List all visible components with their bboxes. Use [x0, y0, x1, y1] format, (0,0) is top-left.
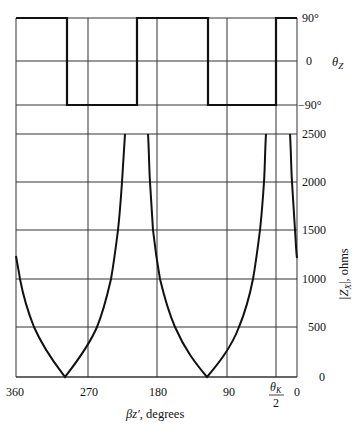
- x-axis-label: βz′, degrees: [125, 407, 184, 421]
- mag-tick-2500: 2500: [302, 127, 326, 141]
- phase-tick-0: 0: [306, 54, 312, 68]
- mag-tick-1500: 1500: [302, 223, 326, 237]
- phase-tick-90: 90°: [302, 11, 319, 25]
- x-tick-0: 0: [294, 385, 300, 399]
- phase-grid: [16, 18, 297, 377]
- x-tick-180: 180: [149, 385, 167, 399]
- chart-figure: 90° 0 −90° θZ 2500 2000 1500 1000 500 0 …: [0, 0, 359, 432]
- phase-tick-neg90: −90°: [298, 98, 322, 112]
- x-tick-360: 360: [6, 385, 24, 399]
- x-tick-270: 270: [80, 385, 98, 399]
- x-tick-90: 90: [223, 385, 235, 399]
- mag-tick-1000: 1000: [302, 272, 326, 286]
- svg-text:2: 2: [273, 396, 279, 410]
- mag-tick-0: 0: [319, 370, 325, 384]
- mag-tick-500: 500: [308, 320, 326, 334]
- phase-axis-label: θZ: [332, 55, 344, 71]
- svg-text:θK: θK: [270, 380, 282, 395]
- thetaK-over-2-label: θK 2: [269, 380, 284, 410]
- magnitude-axis-label: |ZX|, ohms: [337, 248, 353, 300]
- mag-tick-2000: 2000: [302, 175, 326, 189]
